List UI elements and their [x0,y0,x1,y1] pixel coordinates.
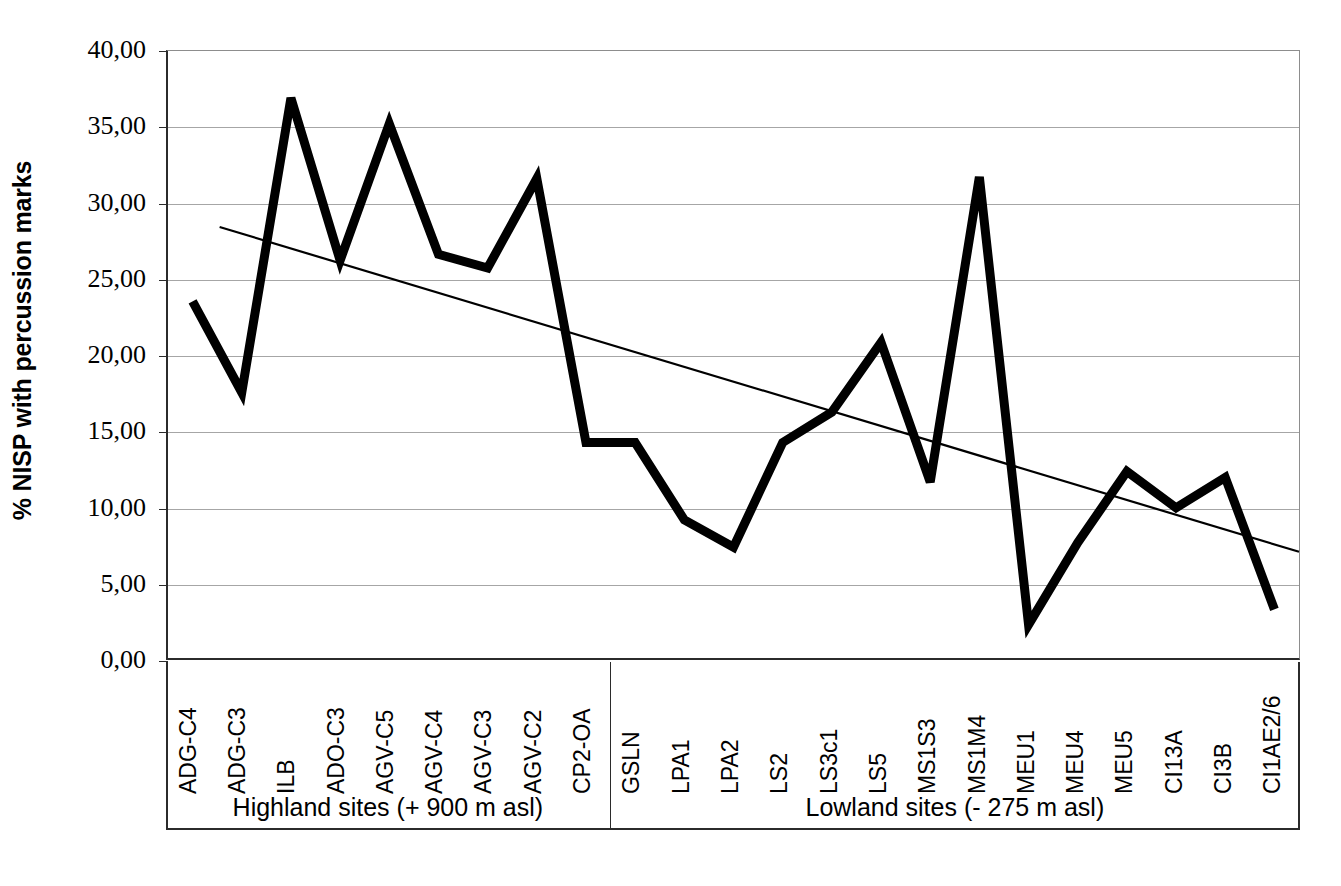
category-label: ADG-C3 [226,707,249,794]
y-axis-title: % NISP with percussion marks [0,0,46,680]
y-tick-label: 15,00 [88,418,147,444]
category-label: ADG-C4 [177,707,200,794]
y-tick-label: 20,00 [88,342,147,368]
category-label: CP2-OA [571,708,594,794]
trendline [220,227,1299,552]
category-axis: ADG-C4ADG-C3ILBADO-C3AGV-C5AGV-C4AGV-C3A… [166,662,1300,794]
y-tick-label: 0,00 [101,647,147,673]
y-tick-label: 25,00 [88,266,147,292]
y-tick-label: 5,00 [101,571,147,597]
category-label: AGV-C2 [522,710,545,794]
category-label: MS1M4 [966,715,989,794]
group-title: Highland sites (+ 900 m asl) [166,795,610,820]
y-axis-tick-labels: 0,005,0010,0015,0020,0025,0030,0035,0040… [46,0,158,886]
category-label: LS5 [867,753,890,794]
y-tick-mark [159,432,168,433]
category-label: MEU4 [1064,730,1087,794]
category-label: LPA1 [670,739,693,794]
category-label: AGV-C3 [472,710,495,794]
y-tick-mark [159,127,168,128]
y-tick-mark [159,356,168,357]
category-label: CI1AE2/6 [1261,696,1284,794]
y-tick-mark [159,51,168,52]
category-label: LS2 [768,753,791,794]
category-label: LS3c1 [818,729,841,794]
y-tick-mark [159,509,168,510]
y-axis-title-text: % NISP with percussion marks [9,160,38,519]
category-label: AGV-C5 [374,710,397,794]
category-label: CI3B [1212,743,1235,794]
caption-strip [0,862,1341,886]
category-label: MEU1 [1015,730,1038,794]
group-title: Lowland sites (- 275 m asl) [610,795,1300,820]
y-tick-label: 40,00 [88,37,147,63]
category-label: MEU5 [1113,730,1136,794]
plot-area [166,50,1300,660]
category-label: MS1S3 [916,719,939,794]
category-label: ADO-C3 [325,707,348,794]
y-tick-mark [159,280,168,281]
y-tick-mark [159,204,168,205]
y-tick-label: 10,00 [88,495,147,521]
data-series-line [193,98,1275,625]
y-tick-label: 30,00 [88,190,147,216]
chart-figure: % NISP with percussion marks 0,005,0010,… [0,0,1341,886]
y-tick-label: 35,00 [88,113,147,139]
y-tick-mark [159,585,168,586]
category-label: GSLN [620,731,643,794]
chart-svg [168,51,1299,658]
category-label: LPA2 [719,739,742,794]
category-label: ILB [275,759,298,794]
category-label: CI13A [1163,730,1186,794]
category-label: AGV-C4 [423,710,446,794]
